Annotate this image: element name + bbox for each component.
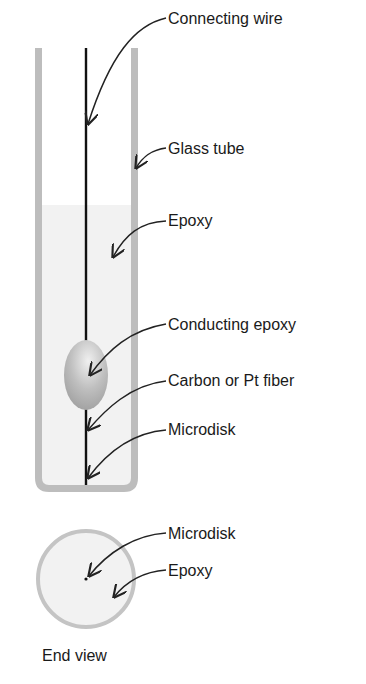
label-carbon-pt-fiber: Carbon or Pt fiber	[168, 373, 294, 389]
electrode-diagram	[0, 0, 366, 684]
end-view-caption: End view	[42, 648, 107, 664]
label-glass-tube: Glass tube	[168, 141, 244, 157]
label-microdisk: Microdisk	[168, 422, 236, 438]
label-conducting-epoxy: Conducting epoxy	[168, 317, 296, 333]
label-epoxy: Epoxy	[168, 213, 212, 229]
arrow-connecting-wire	[88, 18, 166, 124]
label-end-microdisk: Microdisk	[168, 526, 236, 542]
label-end-epoxy: Epoxy	[168, 563, 212, 579]
end-view-microdisk-dot	[84, 577, 87, 580]
label-connecting-wire: Connecting wire	[168, 11, 283, 27]
arrow-glass-tube	[136, 148, 166, 168]
conducting-epoxy-blob	[64, 340, 108, 410]
